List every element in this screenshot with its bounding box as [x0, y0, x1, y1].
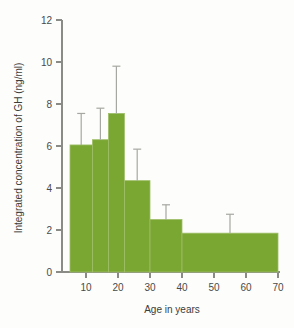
y-tick-label-6: 6	[46, 141, 52, 152]
x-axis-title: Age in years	[144, 304, 200, 315]
x-tick-label-10: 10	[80, 282, 92, 293]
error-bar-30-40	[162, 205, 170, 220]
bar-22-30	[124, 181, 150, 272]
y-tick-label-0: 0	[46, 267, 52, 278]
bars-layer	[70, 113, 278, 272]
y-axis-tick-labels: 0 2 4 6 8 10 12	[41, 15, 53, 278]
error-bar-40-70	[226, 214, 234, 233]
y-axis-ticks	[56, 20, 62, 272]
y-tick-label-8: 8	[46, 99, 52, 110]
bar-5-12	[70, 145, 92, 272]
x-tick-label-20: 20	[112, 282, 124, 293]
error-bar-17-22	[112, 66, 120, 113]
y-axis-title: Integrated concentration of GH (ng/ml)	[13, 63, 24, 234]
error-bar-12-17	[96, 108, 104, 140]
bar-30-40	[150, 220, 182, 273]
bar-17-22	[108, 113, 124, 272]
bar-12-17	[92, 140, 108, 272]
x-axis-ticks	[86, 272, 278, 278]
chart-container: 0 2 4 6 8 10 12 10 20 30 40 50 60 70	[0, 0, 294, 328]
x-axis-tick-labels: 10 20 30 40 50 60 70	[80, 282, 284, 293]
y-tick-label-2: 2	[46, 225, 52, 236]
x-tick-label-40: 40	[176, 282, 188, 293]
error-bar-22-30	[133, 149, 141, 181]
x-tick-label-60: 60	[240, 282, 252, 293]
y-tick-label-12: 12	[41, 15, 53, 26]
x-tick-label-30: 30	[144, 282, 156, 293]
y-tick-label-10: 10	[41, 57, 53, 68]
y-tick-label-4: 4	[46, 183, 52, 194]
x-tick-label-70: 70	[272, 282, 284, 293]
error-bar-5-12	[77, 113, 85, 145]
bar-chart-svg: 0 2 4 6 8 10 12 10 20 30 40 50 60 70	[0, 0, 294, 328]
x-tick-label-50: 50	[208, 282, 220, 293]
bar-40-70	[182, 233, 278, 272]
